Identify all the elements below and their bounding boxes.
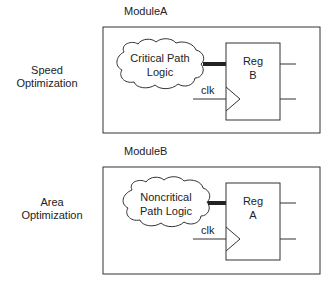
critical-path-logic-label-1: Critical Path (130, 52, 189, 64)
reg-a-label-2: A (249, 209, 257, 221)
reg-b-label-2: B (249, 69, 256, 81)
clk-label-b: clk (201, 224, 215, 236)
clk-label-a: clk (201, 84, 215, 96)
module-b: ModuleB Area Optimization Noncritical Pa… (21, 145, 320, 274)
noncritical-path-logic-label-1: Noncritical (140, 191, 191, 203)
optimization-diagram: ModuleA Speed Optimization Critical Path… (0, 0, 331, 284)
optimization-label-a: Optimization (16, 77, 77, 89)
critical-path-logic-label-2: Logic (147, 66, 174, 78)
reg-b-label-1: Reg (243, 55, 263, 67)
reg-a-label-1: Reg (243, 195, 263, 207)
speed-label: Speed (31, 64, 63, 76)
module-a-title: ModuleA (124, 5, 168, 17)
optimization-label-b: Optimization (21, 209, 82, 221)
area-label: Area (40, 196, 64, 208)
module-b-title: ModuleB (124, 145, 167, 157)
module-a: ModuleA Speed Optimization Critical Path… (16, 5, 320, 133)
noncritical-path-logic-label-2: Path Logic (140, 205, 192, 217)
